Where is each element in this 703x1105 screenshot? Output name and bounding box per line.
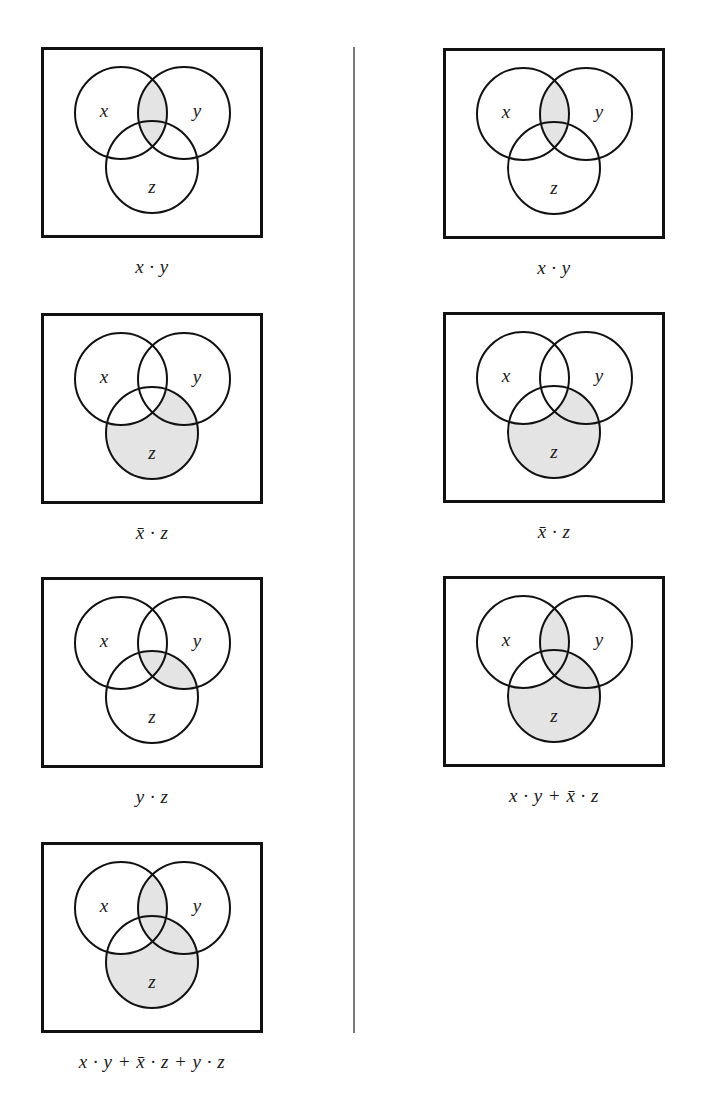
label-z: z [147, 971, 156, 992]
label-x: x [501, 101, 511, 122]
label-z: z [147, 176, 156, 197]
panel-caption: x · y + x̄ · z + y · z [41, 1051, 263, 1073]
venn-diagram: x y z [41, 47, 263, 238]
venn-panel-left-2: x y z x̄ · z [41, 313, 263, 504]
label-z: z [147, 442, 156, 463]
venn-panel-left-4: x y z x · y + x̄ · z + y · z [41, 842, 263, 1033]
panel-caption: x · y [443, 257, 665, 279]
venn-diagram: x y z [443, 312, 665, 503]
circle-x [75, 597, 167, 689]
venn-diagram: x y z [443, 576, 665, 767]
column-divider [353, 47, 355, 1033]
label-x: x [99, 630, 109, 651]
venn-diagram: x y z [41, 313, 263, 504]
venn-panel-left-3: x y z y · z [41, 577, 263, 768]
panel-caption: x · y [41, 256, 263, 278]
panel-caption: x · y + x̄ · z [443, 785, 665, 807]
label-x: x [99, 366, 109, 387]
label-y: y [191, 895, 202, 916]
label-z: z [549, 177, 558, 198]
label-y: y [593, 101, 604, 122]
label-y: y [191, 630, 202, 651]
venn-panel-right-3: x y z x · y + x̄ · z [443, 576, 665, 767]
label-z: z [147, 706, 156, 727]
venn-panel-right-2: x y z x̄ · z [443, 312, 665, 503]
label-x: x [501, 629, 511, 650]
panel-caption: x̄ · z [443, 521, 665, 543]
label-z: z [549, 705, 558, 726]
venn-diagram: x y z [443, 48, 665, 239]
label-z: z [549, 441, 558, 462]
label-x: x [501, 365, 511, 386]
label-y: y [593, 365, 604, 386]
label-y: y [191, 366, 202, 387]
label-y: y [191, 100, 202, 121]
venn-diagram: x y z [41, 842, 263, 1033]
panel-caption: y · z [41, 786, 263, 808]
venn-panel-right-1: x y z x · y [443, 48, 665, 239]
label-y: y [593, 629, 604, 650]
venn-diagram: x y z [41, 577, 263, 768]
label-x: x [99, 100, 109, 121]
panel-caption: x̄ · z [41, 522, 263, 544]
venn-panel-left-1: x y z x · y [41, 47, 263, 238]
label-x: x [99, 895, 109, 916]
